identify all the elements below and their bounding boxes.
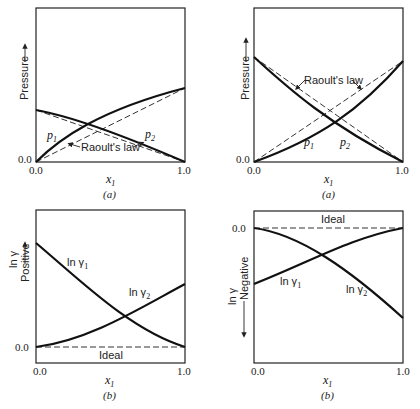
label-ln-gamma2: ln γ2 bbox=[129, 286, 150, 301]
figure: Raoult's law p1 p2 Pressure 0.0 0.0 1.0 … bbox=[0, 0, 420, 409]
raoult-arrow-left bbox=[70, 144, 80, 147]
x-tick-0: 0.0 bbox=[29, 164, 43, 176]
panel-caption: (a) bbox=[103, 188, 116, 201]
x-tick-1: 1.0 bbox=[177, 365, 191, 377]
raoult-label: Raoult's law bbox=[304, 74, 363, 86]
y-tick-0: 0.0 bbox=[232, 222, 246, 234]
y-tick-0: 0.0 bbox=[15, 341, 29, 353]
y-axis-label: Pressure bbox=[239, 56, 251, 100]
ideal-label: Ideal bbox=[99, 349, 123, 361]
plot-frame bbox=[36, 210, 185, 363]
curve-ln-gamma2 bbox=[254, 228, 403, 318]
label-ln-gamma1: ln γ1 bbox=[67, 256, 88, 271]
x-axis-label: x1 bbox=[104, 373, 114, 389]
curve-ln-gamma1 bbox=[254, 228, 403, 284]
panel-caption: (b) bbox=[103, 389, 116, 402]
x-tick-0: 0.0 bbox=[247, 164, 261, 176]
raoult-label: Raoult's law bbox=[81, 141, 140, 153]
x-tick-0: 0.0 bbox=[251, 365, 265, 377]
x-axis-label: x1 bbox=[322, 373, 332, 389]
ideal-label: Ideal bbox=[321, 213, 345, 225]
panel-caption: (a) bbox=[322, 188, 335, 201]
label-p2: p2 bbox=[339, 135, 350, 151]
label-p1: p1 bbox=[46, 128, 57, 144]
label-ln-gamma1: ln γ1 bbox=[280, 275, 301, 290]
label-p2: p2 bbox=[144, 127, 155, 143]
x-axis-label: x1 bbox=[323, 172, 333, 188]
x-tick-1: 1.0 bbox=[395, 164, 409, 176]
y-axis-label: ln γ bbox=[7, 250, 19, 268]
label-p1: p1 bbox=[303, 135, 314, 151]
panel-bottom-right: Ideal ln γ1 ln γ2 ln γ Negative 0.0 0.0 … bbox=[226, 211, 410, 402]
x-tick-1: 1.0 bbox=[177, 164, 191, 176]
panel-caption: (b) bbox=[321, 389, 334, 402]
raoult-line-p1 bbox=[36, 110, 185, 162]
x-tick-1: 1.0 bbox=[396, 365, 410, 377]
plot-frame bbox=[36, 8, 185, 162]
y-axis-label: Pressure bbox=[18, 56, 30, 100]
y-axis-label: ln γ bbox=[226, 287, 238, 305]
panel-top-left: Raoult's law p1 p2 Pressure 0.0 0.0 1.0 … bbox=[18, 8, 191, 201]
panel-bottom-left: ln γ1 ln γ2 Ideal ln γ Positive 0.0 0.0 … bbox=[7, 210, 191, 402]
panel-top-right: Raoult's law p1 p2 Pressure 0.0 0.0 1.0 … bbox=[236, 8, 409, 201]
x-tick-0: 0.0 bbox=[33, 365, 47, 377]
y-direction-label: Negative bbox=[238, 257, 250, 300]
x-axis-label: x1 bbox=[105, 172, 115, 188]
